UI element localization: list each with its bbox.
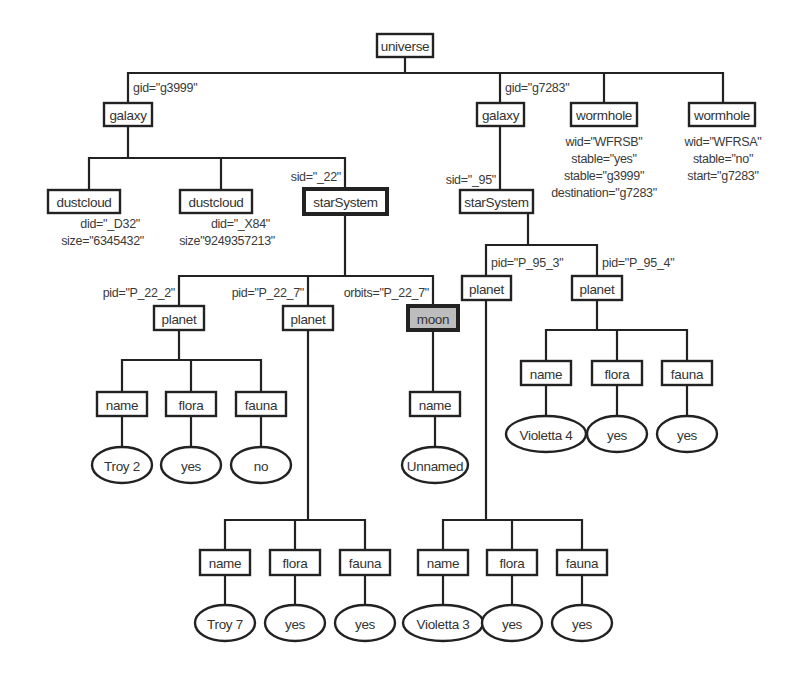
attribute-label: size="6345432" bbox=[61, 234, 144, 248]
node-planet3: planet bbox=[462, 276, 511, 300]
node-label: yes bbox=[181, 459, 202, 474]
node-label: Violetta 4 bbox=[519, 428, 573, 443]
node-p2flora: flora bbox=[270, 550, 320, 575]
attribute-label: orbits="P_22_7" bbox=[344, 286, 429, 300]
node-label: yes bbox=[572, 617, 593, 632]
node-dustcloud2: dustcloud bbox=[180, 190, 252, 213]
node-moonnameval: Unnamed bbox=[402, 447, 468, 483]
node-p3floraval: yes bbox=[482, 605, 542, 641]
node-p3nameval: Violetta 3 bbox=[403, 605, 483, 641]
tree-edge bbox=[128, 73, 723, 103]
node-label: starSystem bbox=[464, 195, 529, 210]
node-label: yes bbox=[607, 428, 628, 443]
node-galaxy2: galaxy bbox=[477, 103, 524, 126]
node-label: yes bbox=[285, 617, 306, 632]
node-planet4: planet bbox=[572, 276, 622, 300]
node-label: fauna bbox=[245, 398, 278, 413]
node-p1flora: flora bbox=[166, 392, 216, 416]
node-label: universe bbox=[381, 39, 430, 54]
attribute-label: pid="P_95_4" bbox=[602, 256, 674, 270]
attribute-label: gid="g3999" bbox=[133, 81, 197, 95]
node-label: planet bbox=[162, 312, 198, 327]
node-moon: moon bbox=[408, 306, 458, 330]
node-planet2: planet bbox=[283, 306, 333, 330]
node-p1fauna: fauna bbox=[236, 392, 286, 416]
node-label: fauna bbox=[566, 556, 599, 571]
attribute-label: did="_D32" bbox=[80, 217, 140, 231]
node-p1floraval: yes bbox=[161, 447, 221, 483]
node-p3faunaval: yes bbox=[552, 605, 612, 641]
node-label: galaxy bbox=[109, 108, 147, 123]
node-p4fauna: fauna bbox=[662, 361, 712, 385]
node-p1name: name bbox=[97, 392, 147, 416]
node-wormhole2: wormhole bbox=[689, 103, 755, 126]
attributes-layer: gid="g3999"gid="g7283"wid="WFRSB"stable=… bbox=[61, 81, 761, 300]
node-p4name: name bbox=[521, 361, 571, 385]
node-moonname: name bbox=[410, 392, 460, 416]
nodes-layer: universegalaxygalaxywormholewormholedust… bbox=[48, 34, 755, 641]
node-galaxy1: galaxy bbox=[104, 103, 152, 126]
node-starsystem2: starSystem bbox=[460, 190, 533, 213]
node-starsystem1: starSystem bbox=[304, 189, 387, 214]
node-p2nameval: Troy 7 bbox=[195, 605, 255, 641]
node-label: wormhole bbox=[575, 108, 632, 123]
node-label: flora bbox=[500, 556, 526, 571]
attribute-label: did="_X84" bbox=[211, 217, 270, 231]
node-label: no bbox=[254, 459, 268, 474]
attribute-label: wid="WFRSB" bbox=[565, 135, 643, 149]
tree-diagram: universegalaxygalaxywormholewormholedust… bbox=[0, 0, 805, 675]
attribute-label: stable="yes" bbox=[571, 152, 636, 166]
node-label: yes bbox=[677, 428, 698, 443]
diagram-svg: universegalaxygalaxywormholewormholedust… bbox=[0, 0, 805, 675]
attribute-label: stable="no" bbox=[693, 152, 753, 166]
node-label: planet bbox=[291, 312, 327, 327]
node-p4flora: flora bbox=[592, 361, 642, 385]
node-p2floraval: yes bbox=[265, 605, 325, 641]
attribute-label: gid="g7283" bbox=[505, 81, 569, 95]
node-label: moon bbox=[417, 312, 450, 327]
node-p2name: name bbox=[200, 550, 250, 575]
attribute-label: pid="P_22_7" bbox=[232, 286, 304, 300]
node-label: name bbox=[106, 398, 139, 413]
node-p3fauna: fauna bbox=[557, 550, 607, 575]
node-wormhole1: wormhole bbox=[571, 103, 637, 126]
node-p3name: name bbox=[418, 550, 468, 575]
node-label: dustcloud bbox=[56, 195, 111, 210]
attribute-label: sid="_22" bbox=[291, 170, 341, 184]
node-label: name bbox=[530, 367, 563, 382]
node-label: Violetta 3 bbox=[416, 617, 469, 632]
node-label: yes bbox=[502, 617, 523, 632]
node-label: fauna bbox=[349, 556, 382, 571]
attribute-label: size"9249357213" bbox=[179, 234, 275, 248]
node-label: dustcloud bbox=[188, 195, 243, 210]
node-p4nameval: Violetta 4 bbox=[506, 416, 586, 452]
node-p3flora: flora bbox=[487, 550, 537, 575]
node-p4floraval: yes bbox=[587, 416, 647, 452]
node-label: planet bbox=[469, 282, 505, 297]
node-label: planet bbox=[580, 282, 616, 297]
attribute-label: destination="g7283" bbox=[551, 186, 657, 200]
node-universe: universe bbox=[377, 34, 433, 57]
node-label: galaxy bbox=[482, 108, 520, 123]
node-p2fauna: fauna bbox=[340, 550, 390, 575]
node-label: name bbox=[209, 556, 242, 571]
node-label: name bbox=[427, 556, 460, 571]
node-p4faunaval: yes bbox=[657, 416, 717, 452]
attribute-label: pid="P_95_3" bbox=[491, 256, 563, 270]
attribute-label: stable="g3999" bbox=[564, 169, 644, 183]
node-label: flora bbox=[179, 398, 205, 413]
attribute-label: wid="WFRSA" bbox=[684, 135, 762, 149]
node-label: flora bbox=[605, 367, 631, 382]
attribute-label: sid="_95" bbox=[446, 173, 496, 187]
attribute-label: start="g7283" bbox=[687, 169, 758, 183]
node-label: Unnamed bbox=[407, 459, 463, 474]
node-dustcloud1: dustcloud bbox=[48, 190, 120, 213]
node-label: flora bbox=[283, 556, 309, 571]
node-p2faunaval: yes bbox=[335, 605, 395, 641]
node-label: wormhole bbox=[693, 108, 750, 123]
node-p1faunaval: no bbox=[231, 447, 291, 483]
node-p1nameval: Troy 2 bbox=[92, 447, 152, 483]
node-label: Troy 2 bbox=[104, 459, 140, 474]
node-planet1: planet bbox=[154, 306, 204, 330]
node-label: fauna bbox=[671, 367, 704, 382]
